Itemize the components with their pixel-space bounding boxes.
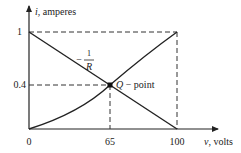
slope-annotation: − 1 R <box>76 49 94 72</box>
q-point-marker <box>108 83 113 88</box>
x-tick-65: 65 <box>105 136 115 147</box>
load-line <box>29 32 177 129</box>
q-point-label: Q − point <box>116 79 155 90</box>
slope-denominator: R <box>85 61 92 72</box>
slope-numerator: 1 <box>87 49 91 58</box>
q-point-chart: i, amperes 1 0.4 0 65 100 v, volts − 1 R… <box>0 0 241 153</box>
x-axis-label: v, volts <box>204 136 233 147</box>
x-tick-0: 0 <box>27 136 32 147</box>
y-axis-label: i, amperes <box>35 6 76 17</box>
y-tick-0-4: 0.4 <box>14 79 27 90</box>
x-tick-100: 100 <box>170 136 185 147</box>
slope-sign: − <box>76 54 82 65</box>
y-tick-1: 1 <box>17 26 22 37</box>
